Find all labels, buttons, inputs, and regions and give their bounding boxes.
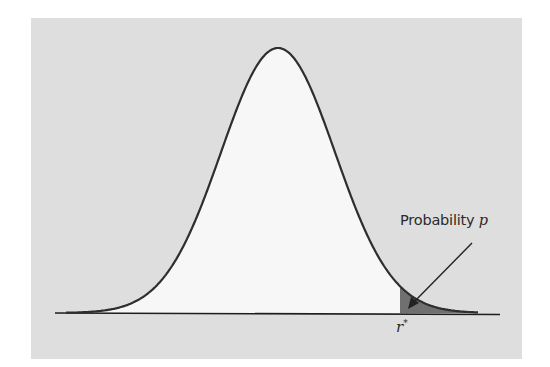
curve-area-fill [66,48,478,313]
arrow-icon [408,243,472,309]
probability-annotation: Probability p [400,212,488,228]
horizontal-axis [55,313,500,315]
normal-curve-diagram [0,0,550,367]
probability-text: Probability [400,212,479,228]
threshold-label: r* [396,318,408,336]
threshold-superscript: * [403,318,408,328]
probability-variable: p [479,212,488,228]
